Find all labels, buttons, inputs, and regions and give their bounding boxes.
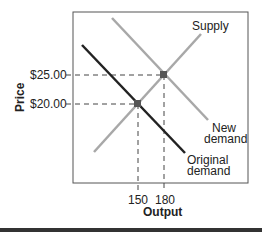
original-demand-label-2: demand: [187, 164, 230, 178]
original-demand-line: [82, 45, 185, 153]
supply-label: Supply: [192, 19, 229, 33]
x-axis-label: Output: [143, 205, 182, 219]
new-demand-label-2: demand: [204, 132, 247, 146]
equilibrium-new: [160, 71, 167, 78]
y-tick-20: $20.00: [30, 97, 67, 111]
supply-demand-chart: Supply New demand Original demand $25.00…: [0, 0, 262, 232]
new-demand-line: [112, 18, 208, 120]
supply-line: [94, 34, 201, 152]
equilibrium-original: [134, 100, 141, 107]
y-tick-25: $25.00: [30, 68, 67, 82]
y-axis-label: Price: [13, 82, 27, 112]
bottom-rule: [0, 228, 262, 232]
